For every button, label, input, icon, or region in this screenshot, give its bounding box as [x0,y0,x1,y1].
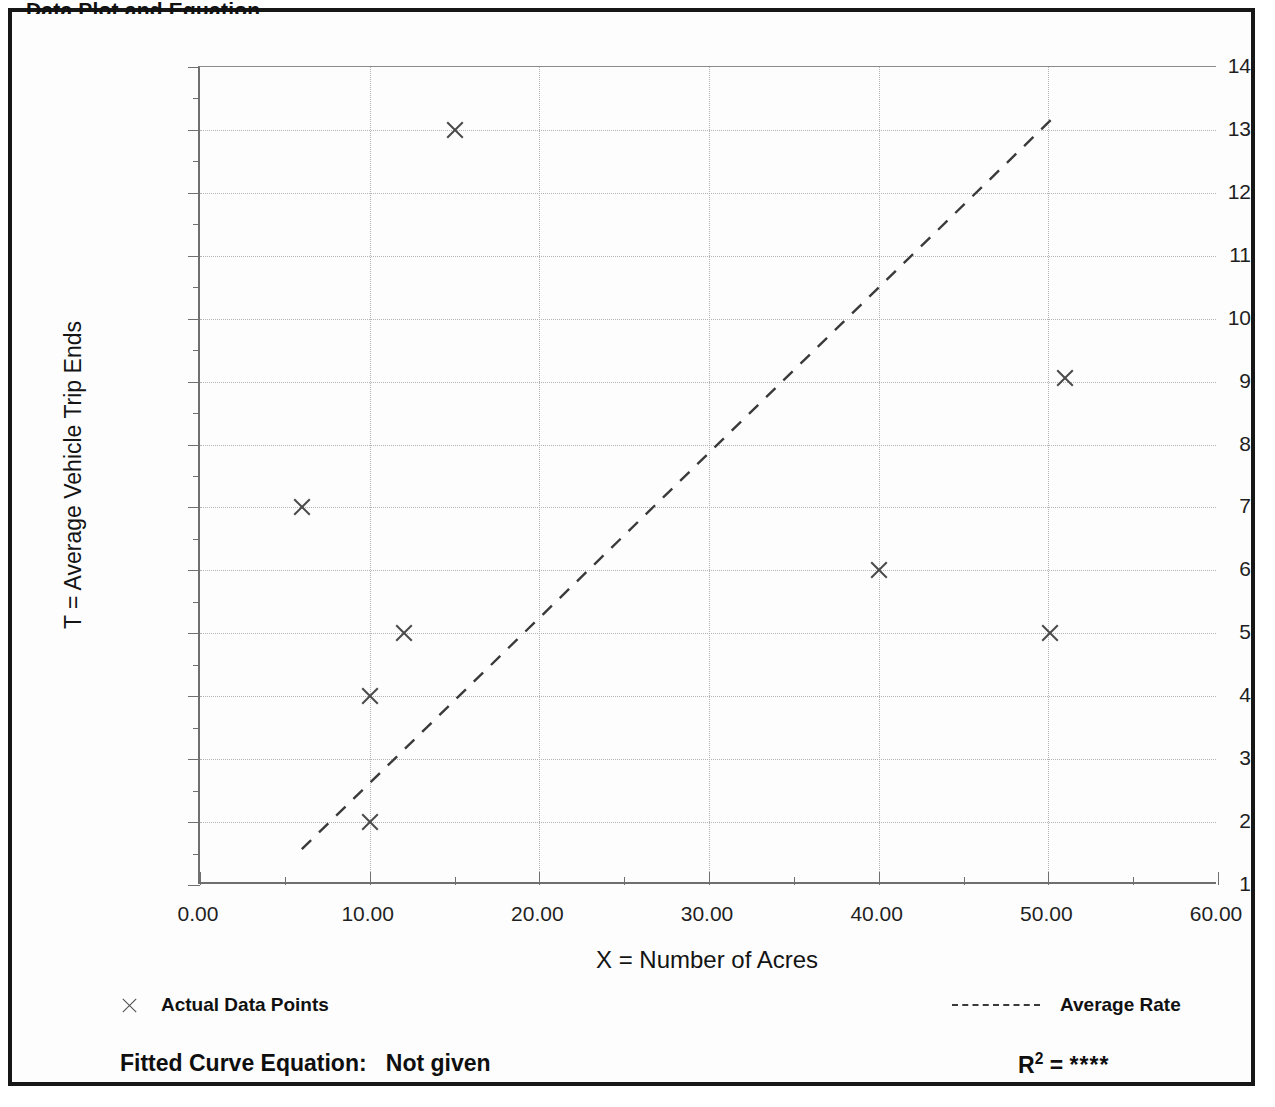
x-axis-tick-label: 10.00 [341,902,394,926]
x-axis-tick-label: 30.00 [681,902,734,926]
data-point-marker [868,559,890,581]
data-point-marker [393,622,415,644]
x-axis-tick-label: 40.00 [850,902,903,926]
equation-row: Fitted Curve Equation: Not given R2 = **… [12,1050,1251,1090]
data-point-marker [1039,622,1061,644]
y-axis-tick [188,822,200,823]
r-squared-annotation: R2 = **** [1018,1050,1109,1079]
legend-item-average-rate: Average Rate [952,994,1181,1016]
x-axis-tick-label: 50.00 [1020,902,1073,926]
y-axis-tick [188,570,200,571]
y-axis-tick-label: 9 [1087,369,1251,393]
x-axis-title: X = Number of Acres [198,946,1216,974]
chart-legend: Actual Data Points Average Rate [12,994,1251,1034]
y-axis-tick-label: 2 [1087,809,1251,833]
data-point-marker [1054,367,1076,389]
legend-item-actual-data-points: Actual Data Points [120,994,329,1016]
y-axis-tick-label: 1 [1087,872,1251,896]
y-axis-minor-tick [193,791,200,792]
x-axis-tick-label: 20.00 [511,902,564,926]
r-squared-value: **** [1070,1052,1110,1078]
y-axis-tick [188,319,200,320]
legend-label-average-rate: Average Rate [1060,994,1181,1016]
x-axis-tick-label: 0.00 [178,902,219,926]
r-squared-exponent: 2 [1035,1050,1044,1067]
y-axis-tick-label: 5 [1087,620,1251,644]
y-axis-tick [188,633,200,634]
average-rate-trendline [200,67,1218,885]
y-axis-tick [188,256,200,257]
y-axis-tick-label: 14 [1087,54,1251,78]
y-axis-tick-label: 3 [1087,746,1251,770]
y-axis-tick [188,885,200,886]
data-point-marker [359,685,381,707]
data-point-marker [444,119,466,141]
plot-area [198,66,1216,884]
r-squared-equals: = [1050,1052,1063,1078]
y-axis-minor-tick [193,539,200,540]
cross-marker-icon [120,996,139,1015]
data-point-marker [291,496,313,518]
y-axis-minor-tick [193,476,200,477]
fitted-curve-equation: Fitted Curve Equation: Not given [120,1050,491,1077]
y-axis-minor-tick [193,728,200,729]
y-axis-minor-tick [193,98,200,99]
y-axis-tick [188,67,200,68]
y-axis-tick-label: 6 [1087,557,1251,581]
y-axis-minor-tick [193,161,200,162]
chart-figure: 1234567891011121314 0.0010.0020.0030.004… [12,12,1251,1082]
y-axis-tick-label: 8 [1087,432,1251,456]
fitted-curve-value: Not given [386,1050,491,1076]
y-axis-tick-label: 12 [1087,180,1251,204]
legend-label-actual-data-points: Actual Data Points [161,994,329,1016]
y-axis-tick [188,130,200,131]
y-axis-minor-tick [193,350,200,351]
y-axis-minor-tick [193,854,200,855]
x-axis-tick-label: 60.00 [1190,902,1243,926]
page-frame: Data Plot and Equation 12345678910111213… [8,8,1255,1086]
y-axis-tick [188,382,200,383]
y-axis-tick-label: 4 [1087,683,1251,707]
y-axis-tick [188,507,200,508]
y-axis-tick-label: 7 [1087,494,1251,518]
y-axis-minor-tick [193,287,200,288]
average-rate-line [302,114,1057,849]
dashed-line-icon [952,1004,1040,1006]
y-axis-tick [188,696,200,697]
y-axis-minor-tick [193,602,200,603]
data-point-marker [359,811,381,833]
y-axis-title: T = Average Vehicle Trip Ends [56,66,90,884]
y-axis-tick [188,759,200,760]
y-axis-tick [188,445,200,446]
y-axis-minor-tick [193,665,200,666]
y-axis-tick [188,193,200,194]
y-axis-minor-tick [193,224,200,225]
fitted-curve-label: Fitted Curve Equation: [120,1050,367,1076]
y-axis-tick-label: 11 [1087,243,1251,267]
y-axis-minor-tick [193,413,200,414]
y-axis-tick-label: 13 [1087,117,1251,141]
y-axis-tick-label: 10 [1087,306,1251,330]
r-squared-label: R [1018,1052,1035,1078]
